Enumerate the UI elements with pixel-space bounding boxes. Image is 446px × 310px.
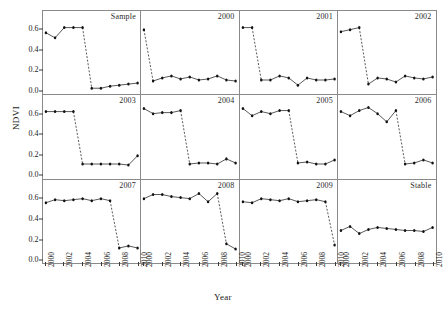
- data-point: [367, 82, 369, 85]
- data-point: [287, 76, 289, 79]
- data-point: [189, 163, 191, 166]
- data-point: [81, 26, 83, 29]
- data-point: [422, 159, 424, 162]
- panel-title: 2006: [415, 96, 432, 106]
- data-point: [395, 109, 397, 112]
- y-axis-tick-mark: [39, 198, 43, 199]
- data-point: [127, 82, 129, 85]
- x-axis-tick-mark: [138, 262, 139, 266]
- panel-title: 2005: [316, 96, 333, 106]
- data-point: [241, 107, 243, 110]
- data-point: [81, 197, 83, 200]
- data-point: [63, 199, 65, 202]
- data-point: [53, 110, 55, 113]
- panel-title: 2009: [316, 181, 333, 191]
- y-axis-tick-labels: 0.00.20.40.6: [3, 11, 43, 95]
- data-point: [422, 77, 424, 80]
- data-point: [72, 198, 74, 201]
- data-point: [340, 110, 342, 113]
- data-point: [152, 112, 154, 115]
- data-point: [189, 75, 191, 78]
- x-axis-tick-label: 2004: [380, 252, 388, 267]
- panel-sample: Sample0.00.20.40.6: [42, 10, 142, 96]
- data-point: [179, 109, 181, 112]
- data-point: [143, 28, 145, 31]
- y-axis-tick-mark: [39, 113, 43, 114]
- data-point: [269, 198, 271, 201]
- data-point: [349, 114, 351, 117]
- data-point: [118, 246, 120, 249]
- data-point: [324, 163, 326, 166]
- data-point: [72, 26, 74, 29]
- data-point: [108, 163, 110, 166]
- data-point: [63, 110, 65, 113]
- data-point: [90, 199, 92, 202]
- x-axis-tick-mark: [298, 262, 299, 266]
- data-point: [81, 163, 83, 166]
- panel-grid: Sample0.00.20.40.620002001200220030.00.2…: [42, 10, 436, 264]
- y-axis-tick-mark: [39, 134, 43, 135]
- data-point: [315, 78, 317, 81]
- x-axis-tick-label: 2006: [301, 252, 309, 267]
- data-point: [225, 242, 227, 245]
- data-point: [225, 158, 227, 161]
- data-point: [260, 110, 262, 113]
- x-axis-tick-mark: [101, 262, 102, 266]
- y-axis-tick-labels: 0.00.20.40.6: [3, 95, 43, 179]
- series-plot: [141, 95, 239, 179]
- data-point: [376, 226, 378, 229]
- x-axis-tick-mark: [162, 262, 163, 266]
- data-point: [413, 162, 415, 165]
- data-point: [358, 109, 360, 112]
- panel-title: 2003: [119, 96, 136, 106]
- data-point: [99, 86, 101, 89]
- data-point: [367, 228, 369, 231]
- x-axis-tick-mark: [119, 262, 120, 266]
- series-plot: [43, 11, 141, 95]
- data-point: [349, 225, 351, 228]
- data-point: [170, 111, 172, 114]
- x-axis-tick-label: 2002: [362, 252, 370, 267]
- break-segment: [181, 111, 190, 164]
- data-point: [136, 81, 138, 84]
- series-segment: [405, 160, 432, 164]
- data-point: [358, 232, 360, 235]
- series-plot: [141, 180, 239, 264]
- data-point: [198, 192, 200, 195]
- data-point: [324, 200, 326, 203]
- data-point: [108, 199, 110, 202]
- data-point: [143, 197, 145, 200]
- x-axis-tick-label: 2000: [146, 252, 154, 267]
- data-point: [305, 76, 307, 79]
- data-point: [241, 200, 243, 203]
- data-point: [234, 79, 236, 82]
- data-point: [189, 197, 191, 200]
- panel-title: Sample: [111, 12, 136, 22]
- break-segment: [110, 201, 119, 248]
- data-point: [395, 228, 397, 231]
- x-axis-tick-label: 2000: [48, 252, 56, 267]
- x-axis-tick-label: 2004: [183, 252, 191, 267]
- data-point: [386, 77, 388, 80]
- x-axis-tick-label: 2008: [319, 252, 327, 267]
- data-point: [118, 83, 120, 86]
- y-axis-tick-label: 0.0: [29, 256, 39, 264]
- data-point: [333, 159, 335, 162]
- data-point: [161, 193, 163, 196]
- y-axis-tick-label: 0.6: [29, 110, 39, 118]
- data-point: [395, 80, 397, 83]
- series-segment: [91, 83, 137, 88]
- data-point: [118, 163, 120, 166]
- data-point: [216, 192, 218, 195]
- x-axis-tick-label: 2000: [343, 252, 351, 267]
- data-point: [324, 78, 326, 81]
- y-axis-tick-mark: [39, 219, 43, 220]
- data-point: [63, 26, 65, 29]
- panel-2006: 2006: [337, 94, 437, 180]
- panel-title: Stable: [410, 181, 431, 191]
- y-axis-tick-label: 0.4: [29, 46, 39, 54]
- data-point: [376, 112, 378, 115]
- data-point: [127, 164, 129, 167]
- y-axis-tick-mark: [39, 239, 43, 240]
- x-axis-tick-label: 2008: [221, 252, 229, 267]
